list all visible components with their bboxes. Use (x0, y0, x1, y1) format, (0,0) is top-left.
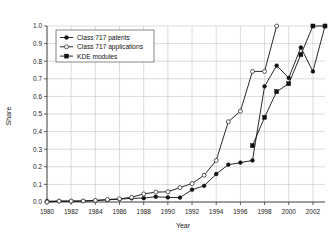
y-tick-label: 0.2 (33, 163, 42, 170)
x-tick-label: 1986 (112, 208, 127, 215)
data-point-marker (275, 24, 279, 28)
data-point-marker (69, 199, 73, 203)
data-point-marker (251, 159, 255, 163)
y-tick-label: 0.6 (33, 93, 42, 100)
x-tick-label: 1984 (88, 208, 103, 215)
data-point-marker (190, 188, 194, 192)
legend-entry-label: Class 717 applications (77, 43, 144, 51)
data-point-marker (154, 195, 158, 199)
legend-entry-label: KDE modules (77, 53, 118, 60)
data-point-marker (202, 184, 206, 188)
y-tick-label: 0.1 (33, 181, 42, 188)
data-point-marker (45, 200, 49, 204)
data-point-marker (166, 196, 170, 200)
chart-figure: 1980198219841986198819901992199419961998… (0, 0, 335, 235)
y-tick-label: 0.4 (33, 128, 42, 135)
y-tick-label: 1.0 (33, 22, 42, 29)
data-point-marker (178, 196, 182, 200)
data-point-marker (214, 172, 218, 176)
data-point-marker (299, 53, 303, 57)
x-axis-tick-labels: 1980198219841986198819901992199419961998… (40, 208, 321, 215)
data-point-marker (311, 70, 315, 74)
x-tick-label: 1996 (233, 208, 248, 215)
data-point-marker (142, 192, 146, 196)
y-tick-label: 0.7 (33, 75, 42, 82)
data-point-marker (190, 182, 194, 186)
legend-marker-icon (65, 45, 69, 49)
x-tick-label: 1992 (185, 208, 200, 215)
data-point-marker (226, 120, 230, 124)
data-point-marker (250, 69, 254, 73)
data-point-marker (287, 82, 291, 86)
y-tick-label: 0.0 (33, 198, 42, 205)
x-tick-label: 1982 (64, 208, 79, 215)
y-tick-label: 0.9 (33, 40, 42, 47)
data-point-marker (250, 144, 254, 148)
share-by-year-line-chart: 1980198219841986198819901992199419961998… (0, 0, 335, 235)
data-point-marker (57, 199, 61, 203)
y-tick-label: 0.5 (33, 110, 42, 117)
data-point-marker (299, 46, 303, 50)
x-tick-label: 1998 (257, 208, 272, 215)
data-point-marker (93, 198, 97, 202)
legend-marker-icon (65, 36, 69, 40)
data-point-marker (238, 109, 242, 113)
data-point-marker (166, 190, 170, 194)
x-tick-label: 1990 (161, 208, 176, 215)
data-point-marker (105, 198, 109, 202)
x-tick-label: 1988 (137, 208, 152, 215)
data-point-marker (154, 190, 158, 194)
x-tick-label: 1980 (40, 208, 55, 215)
legend-entry-label: Class 717 patents (77, 34, 130, 42)
y-axis-title: Share (5, 107, 12, 126)
data-point-marker (214, 158, 218, 162)
data-point-marker (263, 115, 267, 119)
data-point-marker (202, 173, 206, 177)
legend-marker-icon (65, 54, 69, 58)
chart-legend: Class 717 patentsClass 717 applicationsK… (56, 30, 154, 62)
data-point-marker (323, 24, 327, 28)
data-point-marker (81, 199, 85, 203)
y-tick-label: 0.8 (33, 58, 42, 65)
x-axis-title: Year (176, 222, 191, 229)
y-tick-label: 0.3 (33, 146, 42, 153)
y-axis-tick-labels: 0.00.10.20.30.40.50.60.70.80.91.0 (33, 22, 42, 205)
x-tick-label: 1994 (209, 208, 224, 215)
x-tick-label: 2002 (306, 208, 321, 215)
data-point-marker (226, 163, 230, 167)
x-tick-label: 2000 (282, 208, 297, 215)
data-point-marker (275, 64, 279, 68)
data-point-marker (263, 84, 267, 88)
data-point-marker (142, 196, 146, 200)
data-point-marker (178, 186, 182, 190)
data-point-marker (130, 195, 134, 199)
data-point-marker (118, 197, 122, 201)
data-point-marker (263, 69, 267, 73)
data-point-marker (287, 76, 291, 80)
data-point-marker (311, 24, 315, 28)
data-point-marker (238, 161, 242, 165)
data-point-marker (275, 90, 279, 94)
